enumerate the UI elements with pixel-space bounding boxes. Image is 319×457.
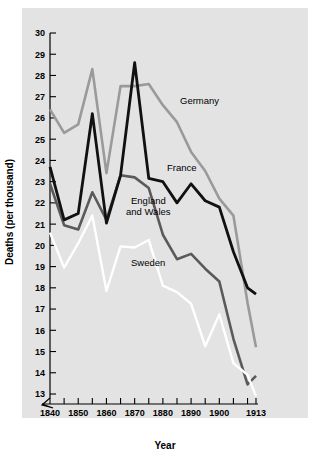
line-chart: 3029282726252423222120191817161514131840… xyxy=(0,0,319,457)
y-axis-tick-label: 24 xyxy=(35,156,45,166)
x-axis-tick-label: 1840 xyxy=(40,408,60,418)
y-axis-tick-label: 20 xyxy=(35,241,45,251)
y-axis-tick-label: 14 xyxy=(35,368,45,378)
series-annotation-france: France xyxy=(167,162,197,173)
y-axis-tick-label: 23 xyxy=(35,177,45,187)
y-axis-tick-label: 27 xyxy=(35,92,45,102)
x-axis-tick-label: 1890 xyxy=(181,408,201,418)
y-axis-tick-label: 13 xyxy=(35,389,45,399)
y-axis-tick-label: 21 xyxy=(35,220,45,230)
x-axis-tick-label: 1913 xyxy=(246,408,266,418)
y-axis-tick-label: 30 xyxy=(35,28,45,38)
series-annotation-sweden: Sweden xyxy=(131,257,165,268)
series-group xyxy=(50,63,256,396)
axis-lines-group xyxy=(42,33,258,408)
y-axis-tick-label: 17 xyxy=(35,304,45,314)
y-axis-tick-label: 22 xyxy=(35,198,45,208)
chart-figure: 3029282726252423222120191817161514131840… xyxy=(0,0,319,457)
y-axis-tick-label: 26 xyxy=(35,113,45,123)
y-axis-title: Deaths (per thousand) xyxy=(4,159,15,265)
x-axis-tick-label: 1870 xyxy=(125,408,145,418)
series-annotation-germany: Germany xyxy=(180,95,219,106)
series-annotation-england-line2: and Wales xyxy=(126,206,171,217)
y-axis-tick-label: 28 xyxy=(35,71,45,81)
x-axis-title: Year xyxy=(154,440,175,451)
y-axis-tick-label: 25 xyxy=(35,135,45,145)
y-axis-tick-label: 19 xyxy=(35,262,45,272)
x-axis-tick-label: 1850 xyxy=(68,408,88,418)
y-axis-tick-label: 29 xyxy=(35,50,45,60)
y-axis-tick-label: 18 xyxy=(35,283,45,293)
series-annotation-england-line1: England xyxy=(131,195,166,206)
y-axis-tick-label: 15 xyxy=(35,347,45,357)
x-axis-tick-label: 1880 xyxy=(153,408,173,418)
x-axis-tick-label: 1900 xyxy=(209,408,229,418)
x-axis-tick-label: 1860 xyxy=(96,408,116,418)
y-axis-tick-label: 16 xyxy=(35,326,45,336)
